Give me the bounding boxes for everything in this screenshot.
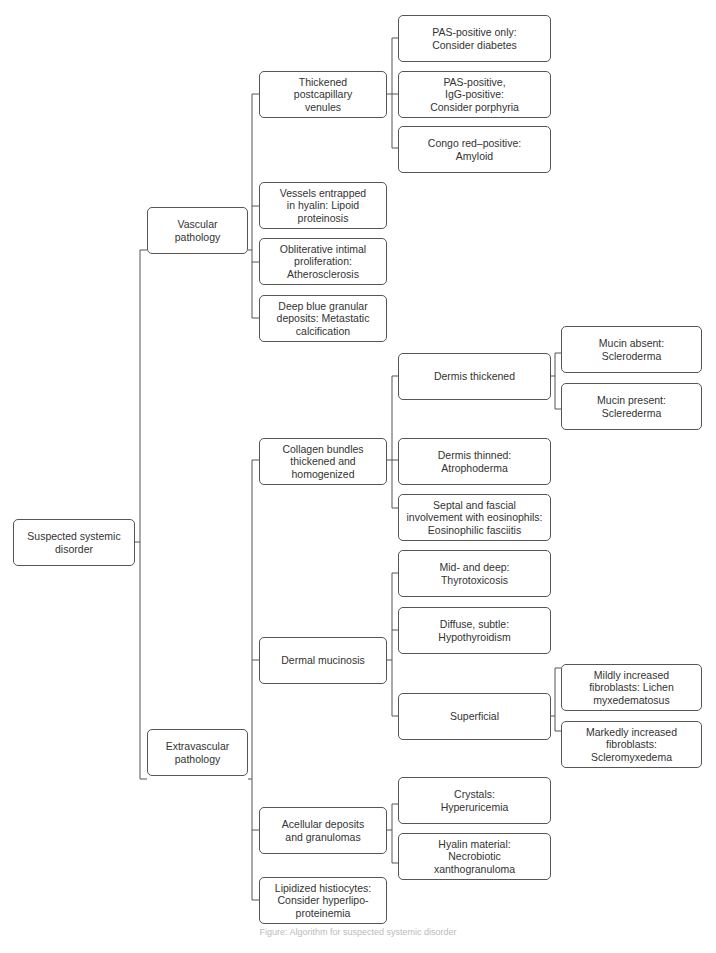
septal-node: Septal and fascial involvement with eosi… — [398, 494, 551, 541]
extravascular-node: Extravascular pathology — [147, 729, 248, 776]
vascular-node: Vascular pathology — [147, 207, 248, 254]
flowchart-canvas: Suspected systemic disorder Vascular pat… — [0, 0, 716, 953]
superficial-node: Superficial — [398, 693, 551, 740]
dermis-thinned-node: Dermis thinned: Atrophoderma — [398, 438, 551, 485]
thickened-venules-node: Thickened postcapillary venules — [259, 71, 387, 118]
mucin-absent-node: Mucin absent: Scleroderma — [561, 326, 702, 373]
mucin-present-node: Mucin present: Sclerederma — [561, 383, 702, 430]
pas-only-node: PAS-positive only: Consider diabetes — [398, 15, 551, 62]
congo-red-node: Congo red–positive: Amyloid — [398, 126, 551, 173]
root-node: Suspected systemic disorder — [13, 519, 135, 566]
figure-caption: Figure: Algorithm for suspected systemic… — [0, 927, 716, 937]
hyalin-material-node: Hyalin material: Necrobiotic xanthogranu… — [398, 833, 551, 880]
mucinosis-node: Dermal mucinosis — [259, 637, 387, 684]
collagen-node: Collagen bundles thickened and homogeniz… — [259, 438, 387, 485]
markedly-node: Markedly increased fibroblasts: Scleromy… — [561, 721, 702, 768]
obliterative-node: Obliterative intimal proliferation: Athe… — [259, 238, 387, 285]
mid-deep-node: Mid- and deep: Thyrotoxicosis — [398, 550, 551, 597]
crystals-node: Crystals: Hyperuricemia — [398, 777, 551, 824]
hyalin-vessels-node: Vessels entrapped in hyalin: Lipoid prot… — [259, 182, 387, 229]
dermis-thickened-node: Dermis thickened — [398, 353, 551, 400]
mildly-node: Mildly increased fibroblasts: Lichen myx… — [561, 664, 702, 711]
acellular-node: Acellular deposits and granulomas — [259, 807, 387, 854]
deep-blue-node: Deep blue granular deposits: Metastatic … — [259, 295, 387, 342]
pas-igg-node: PAS-positive, IgG-positive: Consider por… — [398, 71, 551, 118]
diffuse-node: Diffuse, subtle: Hypothyroidism — [398, 607, 551, 654]
lipidized-node: Lipidized histiocytes: Consider hyperlip… — [259, 877, 387, 924]
